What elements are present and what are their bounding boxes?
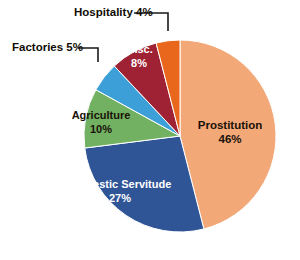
- callout-label-hospitality: Hospitality 4%: [74, 6, 153, 18]
- pie-slice-group: [84, 40, 276, 232]
- pie-chart-figure: Prostitution 46% Domestic Servitude 27% …: [0, 0, 300, 260]
- callout-label-factories: Factories 5%: [12, 41, 83, 53]
- pie-chart-svg: Prostitution 46% Domestic Servitude 27% …: [0, 0, 300, 260]
